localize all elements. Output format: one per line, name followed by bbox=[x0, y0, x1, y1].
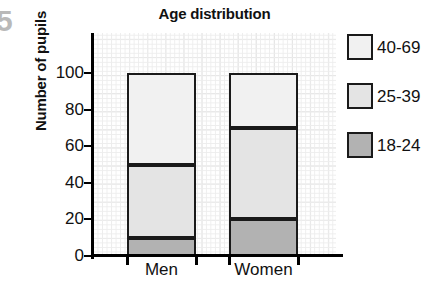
legend-label-25-39: 25-39 bbox=[377, 88, 420, 105]
y-tick-40 bbox=[84, 182, 94, 184]
legend-item-40-69[interactable]: 40-69 bbox=[347, 33, 420, 61]
bar-segment-women-18-24[interactable] bbox=[229, 219, 298, 256]
y-tick-20 bbox=[84, 218, 94, 220]
chart-figure: 5 Age distribution Number of pupils 0204… bbox=[0, 0, 435, 285]
legend-label-18-24: 18-24 bbox=[377, 137, 420, 154]
bar-stack-men[interactable] bbox=[127, 33, 196, 256]
figure-number-fragment: 5 bbox=[0, 6, 18, 36]
legend-item-25-39[interactable]: 25-39 bbox=[347, 82, 420, 110]
y-tick-label-0: 0 bbox=[40, 247, 84, 264]
y-tick-80 bbox=[84, 109, 94, 111]
legend-item-18-24[interactable]: 18-24 bbox=[347, 131, 420, 159]
chart-title: Age distribution bbox=[93, 5, 336, 22]
bar-segment-women-40-69[interactable] bbox=[229, 73, 298, 128]
x-tick-label-women: Women bbox=[229, 261, 298, 278]
legend-swatch-18-24 bbox=[347, 132, 373, 158]
bar-segment-women-25-39[interactable] bbox=[229, 128, 298, 220]
legend-swatch-40-69 bbox=[347, 34, 373, 60]
y-tick-0 bbox=[84, 255, 94, 257]
bar-segment-men-40-69[interactable] bbox=[127, 73, 196, 165]
y-tick-label-80: 80 bbox=[40, 101, 84, 118]
x-tick-label-men: Men bbox=[127, 261, 196, 278]
y-tick-100 bbox=[84, 72, 94, 74]
y-tick-label-40: 40 bbox=[40, 174, 84, 191]
y-tick-label-60: 60 bbox=[40, 137, 84, 154]
y-tick-label-100: 100 bbox=[40, 64, 84, 81]
legend-label-40-69: 40-69 bbox=[377, 39, 420, 56]
bar-stack-women[interactable] bbox=[229, 33, 298, 256]
y-tick-60 bbox=[84, 145, 94, 147]
bar-segment-men-25-39[interactable] bbox=[127, 165, 196, 238]
plot-area bbox=[93, 33, 336, 256]
y-tick-label-20: 20 bbox=[40, 210, 84, 227]
legend-swatch-25-39 bbox=[347, 83, 373, 109]
